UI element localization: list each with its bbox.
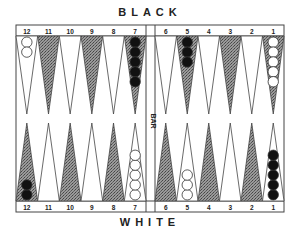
black-checker[interactable] bbox=[130, 47, 140, 57]
white-checker[interactable] bbox=[268, 47, 278, 57]
black-checker[interactable] bbox=[22, 190, 32, 200]
white-checker[interactable] bbox=[22, 37, 32, 47]
point-number-bottom-7: 7 bbox=[133, 204, 137, 211]
black-checker[interactable] bbox=[182, 37, 192, 47]
point-number-top-5: 5 bbox=[185, 28, 189, 35]
white-side-label: WHITE bbox=[0, 216, 300, 228]
white-checker[interactable] bbox=[130, 190, 140, 200]
black-checker[interactable] bbox=[268, 190, 278, 200]
point-number-top-7: 7 bbox=[133, 28, 137, 35]
point-number-bottom-12: 12 bbox=[23, 204, 31, 211]
point-number-bottom-10: 10 bbox=[67, 204, 75, 211]
white-checker[interactable] bbox=[182, 180, 192, 190]
point-number-top-9: 9 bbox=[90, 28, 94, 35]
point-number-top-6: 6 bbox=[164, 28, 168, 35]
white-checker[interactable] bbox=[268, 37, 278, 47]
point-number-bottom-6: 6 bbox=[164, 204, 168, 211]
point-number-bottom-11: 11 bbox=[45, 204, 52, 211]
black-checker[interactable] bbox=[182, 47, 192, 57]
point-number-top-4: 4 bbox=[207, 28, 211, 35]
black-checker[interactable] bbox=[268, 150, 278, 160]
point-number-top-1: 1 bbox=[271, 28, 275, 35]
black-checker[interactable] bbox=[22, 180, 32, 190]
black-checker[interactable] bbox=[130, 77, 140, 87]
point-number-top-8: 8 bbox=[112, 28, 116, 35]
point-number-top-10: 10 bbox=[67, 28, 75, 35]
black-checker[interactable] bbox=[268, 160, 278, 170]
black-checker[interactable] bbox=[130, 37, 140, 47]
point-number-top-2: 2 bbox=[250, 28, 254, 35]
point-number-bottom-9: 9 bbox=[90, 204, 94, 211]
point-number-top-12: 12 bbox=[23, 28, 31, 35]
point-number-bottom-8: 8 bbox=[112, 204, 116, 211]
white-checker[interactable] bbox=[130, 150, 140, 160]
white-checker[interactable] bbox=[268, 57, 278, 67]
black-checker[interactable] bbox=[130, 57, 140, 67]
bar-label: BAR bbox=[150, 113, 157, 128]
point-number-bottom-3: 3 bbox=[228, 204, 232, 211]
point-number-bottom-2: 2 bbox=[250, 204, 254, 211]
point-number-bottom-1: 1 bbox=[271, 204, 275, 211]
black-checker[interactable] bbox=[182, 57, 192, 67]
black-checker[interactable] bbox=[268, 180, 278, 190]
white-checker[interactable] bbox=[130, 160, 140, 170]
white-checker[interactable] bbox=[268, 77, 278, 87]
white-checker[interactable] bbox=[130, 180, 140, 190]
point-number-top-11: 11 bbox=[45, 28, 52, 35]
backgammon-board: BAR121110987654321121110987654321 bbox=[0, 0, 300, 234]
point-number-bottom-4: 4 bbox=[207, 204, 211, 211]
black-checker[interactable] bbox=[130, 67, 140, 77]
white-checker[interactable] bbox=[22, 47, 32, 57]
point-number-bottom-5: 5 bbox=[185, 204, 189, 211]
white-checker[interactable] bbox=[182, 170, 192, 180]
white-checker[interactable] bbox=[268, 67, 278, 77]
point-number-top-3: 3 bbox=[228, 28, 232, 35]
black-checker[interactable] bbox=[268, 170, 278, 180]
white-checker[interactable] bbox=[130, 170, 140, 180]
white-checker[interactable] bbox=[182, 190, 192, 200]
